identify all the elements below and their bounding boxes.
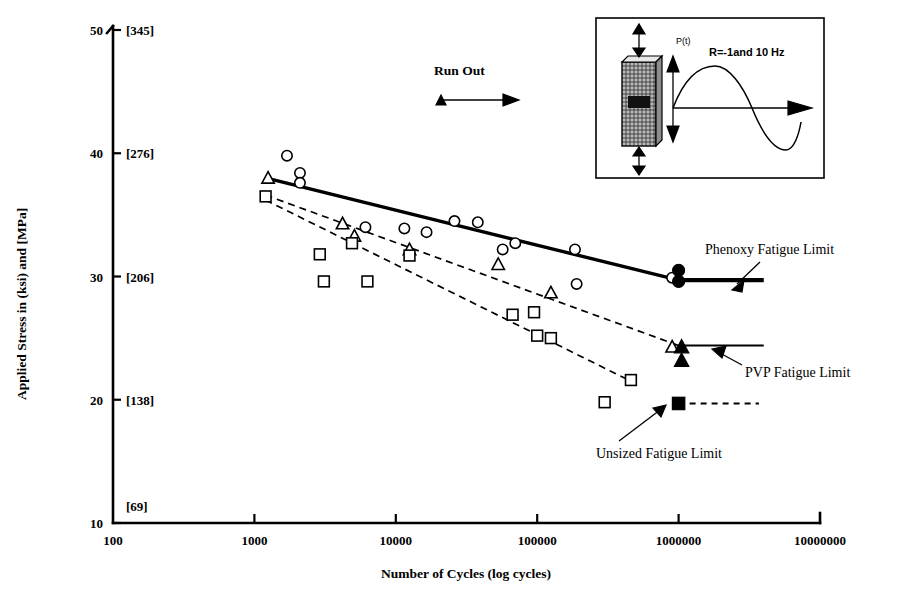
pvp-fatigue-limit-callout: PVP Fatigue Limit — [712, 346, 850, 380]
open-circle-marker — [421, 227, 431, 237]
open-circle-marker — [571, 279, 581, 289]
x-axis-ticks: 100100010000100000100000010000000 — [103, 514, 846, 548]
open-circle-marker — [399, 223, 409, 233]
inset-schematic: P(t) R=-1and 10 Hz — [596, 18, 824, 178]
open-triangle-marker — [336, 217, 348, 228]
solid-circle-marker — [673, 264, 685, 276]
chart-svg: 10[69]20[138]30[206]40[276]50[345] 10010… — [0, 0, 900, 600]
y-tick-label-mpa: [138] — [126, 393, 154, 408]
open-square-marker — [318, 276, 329, 287]
open-square-marker — [404, 250, 415, 261]
inset-load-label: P(t) — [676, 36, 691, 46]
y-tick-label: 20 — [90, 393, 103, 408]
open-square-marker — [314, 249, 325, 260]
unsized-fatigue-limit-callout: Unsized Fatigue Limit — [596, 405, 722, 461]
unsized-leader-line — [619, 410, 660, 441]
fatigue-chart: 10[69]20[138]30[206]40[276]50[345] 10010… — [0, 0, 900, 600]
open-circle-marker — [473, 217, 483, 227]
open-square-marker — [532, 330, 543, 341]
solid-triangle-marker — [674, 353, 688, 366]
series-unsized-run-out — [672, 397, 684, 409]
y-tick-label-mpa: [345] — [126, 23, 154, 38]
x-tick-label: 10000 — [380, 533, 413, 548]
fatigue-limit-lines-layer — [679, 280, 764, 403]
run-out-label: Run Out — [434, 63, 485, 78]
open-square-marker — [626, 375, 637, 386]
y-axis-label: Applied Stress in (ksi) and [MPa] — [14, 208, 29, 400]
y-tick-label-mpa: [206] — [126, 270, 154, 285]
y-tick-label: 40 — [90, 146, 103, 161]
open-triangle-marker — [545, 286, 557, 297]
unsized-limit-label: Unsized Fatigue Limit — [596, 446, 722, 461]
open-square-marker — [529, 307, 540, 318]
phenoxy-fatigue-limit-callout: Phenoxy Fatigue Limit — [705, 242, 834, 292]
open-square-marker — [599, 397, 610, 408]
pvp-limit-label: PVP Fatigue Limit — [745, 365, 850, 380]
specimen-icon — [622, 56, 662, 146]
open-square-marker — [507, 309, 518, 320]
open-square-marker — [260, 191, 271, 202]
open-circle-marker — [510, 238, 520, 248]
solid-square-marker — [672, 397, 684, 409]
x-tick-label: 10000000 — [794, 533, 846, 548]
open-square-marker — [546, 333, 557, 344]
x-tick-label: 100000 — [518, 533, 557, 548]
open-circle-marker — [570, 244, 580, 254]
open-triangle-marker — [262, 172, 274, 183]
x-tick-label: 1000000 — [656, 533, 702, 548]
run-out-arrow-head-icon — [503, 94, 519, 106]
y-tick-label-mpa: [276] — [126, 146, 154, 161]
open-circle-marker — [295, 178, 305, 188]
open-circle-marker — [360, 222, 370, 232]
phenoxy-limit-label: Phenoxy Fatigue Limit — [705, 242, 834, 257]
open-circle-marker — [497, 244, 507, 254]
unsized-leader-arrow-icon — [653, 405, 666, 417]
open-triangle-marker — [492, 258, 504, 269]
trend-line — [266, 178, 679, 280]
series-pvp-run-out — [674, 340, 688, 367]
open-square-marker — [347, 238, 358, 249]
y-tick-label: 10 — [90, 516, 103, 531]
trend-line — [266, 195, 679, 345]
data-markers-layer — [260, 151, 689, 410]
y-tick-label: 50 — [90, 23, 103, 38]
open-circle-marker — [282, 151, 292, 161]
trend-line — [266, 200, 636, 384]
run-out-annotation: Run Out — [434, 63, 519, 106]
x-tick-label: 1000 — [241, 533, 267, 548]
y-tick-label-mpa: [69] — [126, 499, 148, 514]
x-axis-label: Number of Cycles (log cycles) — [381, 566, 551, 581]
series-pvp-sized — [262, 172, 678, 352]
y-axis-ticks: 10[69]20[138]30[206]40[276]50[345] — [90, 23, 154, 531]
open-square-marker — [362, 276, 373, 287]
open-circle-marker — [295, 168, 305, 178]
y-tick-label: 30 — [90, 270, 103, 285]
open-circle-marker — [449, 216, 459, 226]
x-tick-label: 100 — [103, 533, 123, 548]
pvp-leader-arrow-icon — [712, 346, 726, 358]
inset-condition-label: R=-1and 10 Hz — [709, 46, 785, 58]
solid-circle-marker — [673, 275, 685, 287]
